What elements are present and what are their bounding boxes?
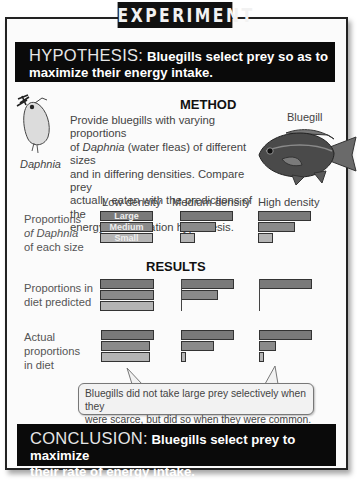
conclusion-box: CONCLUSION: Bluegills select prey to max…	[17, 424, 336, 466]
results-callout: Bluegills did not take large prey select…	[78, 383, 314, 415]
conclusion-text-2: their rate of energy intake.	[30, 464, 195, 479]
experiment-title: EXPERIMENT	[118, 2, 233, 28]
conclusion-label: CONCLUSION:	[30, 429, 148, 447]
